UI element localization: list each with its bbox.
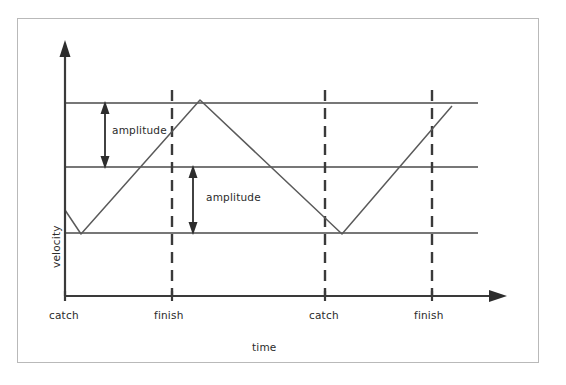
x-tick-label-catch-1: catch (49, 309, 79, 321)
velocity-axis-label: velocity (50, 225, 62, 268)
time-axis-arrow-icon (489, 290, 507, 302)
figure-root: velocity time amplitude amplitude catch … (0, 0, 566, 385)
amplitude-label-2: amplitude (206, 191, 261, 203)
time-axis-label: time (252, 341, 277, 353)
velocity-axis-arrow-icon (60, 40, 71, 57)
x-tick-label-catch-2: catch (309, 309, 339, 321)
x-tick-label-finish-2: finish (414, 309, 444, 321)
amplitude-label-1: amplitude (112, 124, 167, 136)
velocity-time-plot (0, 0, 566, 385)
x-tick-label-finish-1: finish (154, 309, 184, 321)
